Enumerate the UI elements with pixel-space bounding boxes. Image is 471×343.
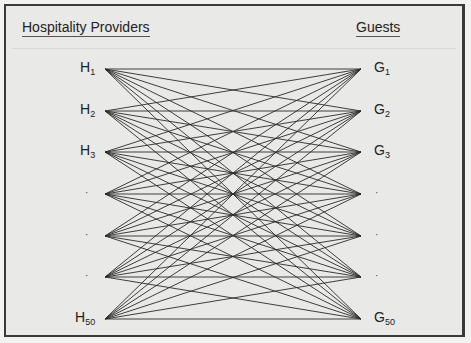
provider-ellipsis-3: ·	[85, 187, 88, 198]
guest-ellipsis-5: ·	[375, 270, 378, 281]
provider-node-H3: H3	[80, 143, 95, 162]
bipartite-edges	[0, 0, 471, 343]
guest-ellipsis-4: ·	[375, 229, 378, 240]
guest-node-G1: G1	[374, 60, 390, 79]
provider-node-H1: H1	[80, 60, 95, 79]
guest-ellipsis-3: ·	[375, 187, 378, 198]
provider-ellipsis-4: ·	[85, 229, 88, 240]
guest-node-G2: G2	[374, 102, 390, 121]
guest-node-G50: G50	[374, 310, 395, 329]
provider-node-H2: H2	[80, 102, 95, 121]
guest-node-G3: G3	[374, 143, 390, 162]
provider-ellipsis-5: ·	[85, 270, 88, 281]
provider-node-H50: H50	[75, 310, 95, 329]
